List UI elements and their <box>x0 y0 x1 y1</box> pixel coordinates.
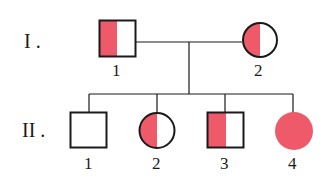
generation-label-2: II . <box>22 119 45 141</box>
individual-II-2-female-carrier <box>140 113 175 148</box>
individual-number: 4 <box>288 154 297 173</box>
individual-I-2-female-carrier <box>243 23 277 57</box>
individual-number: 1 <box>112 61 121 80</box>
individual-number: 1 <box>84 154 93 173</box>
pedigree-chart: I . II . 1 2 1 2 3 4 <box>0 0 333 189</box>
individual-number: 3 <box>220 154 229 173</box>
individual-II-1-male-unaffected <box>71 113 107 148</box>
individual-number: 2 <box>254 61 263 80</box>
individual-II-4-female-affected <box>275 112 313 150</box>
generation-label-1: I . <box>24 30 41 52</box>
individual-number: 2 <box>152 154 161 173</box>
individual-I-1-male-carrier <box>100 21 136 57</box>
individual-II-3-male-carrier <box>208 113 244 148</box>
